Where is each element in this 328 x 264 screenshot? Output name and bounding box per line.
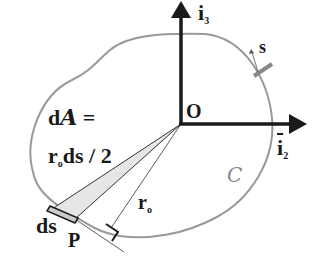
origin-label: O [186,101,202,121]
area-formula-r-subscript: o [58,158,63,169]
area-formula-line2: rods / 2 [48,145,112,167]
arc-param-label: s [259,38,266,56]
area-formula-line1: dA = [48,106,95,129]
area-formula-equals: = [77,105,95,130]
element-label: ds [36,215,57,237]
axis-i2-arrowhead-icon [289,114,307,134]
area-formula-ds-over-2: ds / 2 [63,143,112,168]
s-direction-arrow-icon [249,49,254,54]
radius-subscript: o [147,204,152,215]
radius-symbol: r [138,191,147,213]
axis-i3-label: i3 [198,2,209,24]
radius-label: ro [138,192,152,212]
area-formula-r: r [48,143,58,168]
axis-i2-subscript: 2 [283,150,288,161]
area-wedge [52,124,181,219]
point-label: P [68,230,80,250]
area-formula-d: d [48,105,60,130]
axis-i3-subscript: 3 [204,15,209,26]
axis-i3-arrowhead-icon [171,1,191,18]
curve-label: C [227,165,242,185]
area-symbol: A [60,104,77,130]
axis-i2-label: i2 [277,137,288,159]
